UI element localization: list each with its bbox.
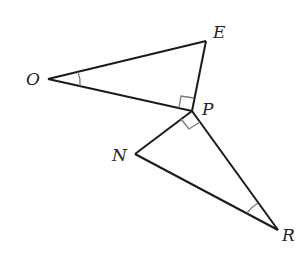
- label-o: O: [26, 69, 40, 89]
- angle-arc-o: [78, 72, 80, 86]
- segment-oe: [48, 41, 206, 79]
- right-angle-mark-p-lower: [181, 119, 200, 129]
- right-angle-mark-p-upper: [179, 96, 194, 108]
- geometry-diagram: E O P N R: [0, 0, 304, 256]
- segment-op: [48, 79, 192, 111]
- label-e: E: [212, 22, 226, 42]
- label-r: R: [281, 225, 295, 245]
- segment-nr: [135, 154, 278, 230]
- label-p: P: [201, 99, 214, 119]
- segment-pr: [192, 111, 278, 230]
- segment-pn: [135, 111, 192, 154]
- angle-arc-r: [247, 203, 258, 213]
- label-n: N: [111, 145, 128, 165]
